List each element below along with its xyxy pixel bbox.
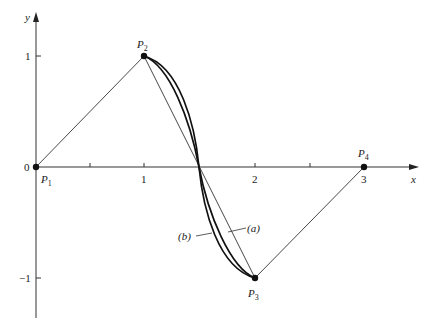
label-p1: P1 [40,173,52,188]
diagram-figure: y x 1 2 3 1 0 −1 [0,0,440,334]
segment-p1-p2 [36,56,144,167]
label-p2: P2 [136,38,148,53]
label-curve-b: (b) [178,230,191,243]
point-p1 [33,164,39,170]
x-tick-label-3: 3 [361,173,367,185]
label-p4: P4 [357,147,369,162]
x-tick-label-2: 2 [252,173,258,185]
label-p3: P3 [247,287,259,302]
axes: y x 1 2 3 1 0 −1 [19,11,419,318]
leader-b [196,233,212,236]
x-axis-arrow-icon [409,164,419,170]
point-p3 [252,275,258,281]
x-tick-label-1: 1 [141,173,147,185]
point-p4 [361,164,367,170]
segment-p3-p4 [255,167,364,278]
y-tick-label-neg1: −1 [19,272,31,284]
y-axis-arrow-icon [33,12,39,22]
point-p2 [141,53,147,59]
label-curve-a: (a) [247,222,260,235]
x-axis-label: x [410,173,416,185]
y-tick-label-0: 0 [24,161,30,173]
y-axis-label: y [24,11,30,23]
y-tick-label-1: 1 [25,50,31,62]
